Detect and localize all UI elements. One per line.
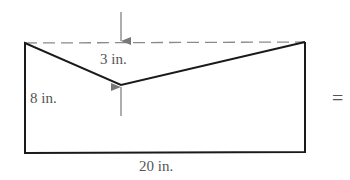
depth-label: 3 in. (100, 52, 127, 67)
height-label: 8 in. (30, 91, 57, 106)
dashed-reference-line (25, 42, 305, 43)
width-label: 20 in. (139, 159, 173, 174)
equals-sign: = (332, 88, 343, 108)
shape-outline (25, 42, 305, 153)
